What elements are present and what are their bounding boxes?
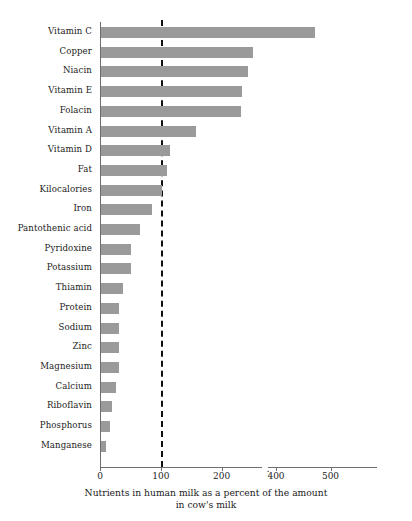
caption-line-2: in cow's milk — [0, 499, 412, 511]
bar — [101, 421, 110, 432]
x-axis-segment-right — [268, 467, 377, 468]
category-label: Kilocalories — [0, 184, 92, 194]
x-axis-tick-label: 200 — [213, 471, 230, 482]
category-label: Pyridoxine — [0, 243, 92, 253]
category-label: Thiamin — [0, 282, 92, 292]
x-axis: 0100200400500 — [100, 467, 412, 481]
bar — [101, 86, 242, 97]
axis-caption: Nutrients in human milk as a percent of … — [0, 487, 412, 511]
bar — [101, 441, 106, 452]
bar — [101, 263, 131, 274]
category-label: Fat — [0, 164, 92, 174]
x-axis-tick-label: 500 — [322, 471, 339, 482]
category-label: Protein — [0, 302, 92, 312]
bar — [101, 47, 253, 58]
x-axis-segment-left — [100, 467, 262, 468]
bar — [101, 106, 241, 117]
bar — [101, 283, 123, 294]
bar — [101, 303, 119, 314]
category-label: Niacin — [0, 65, 92, 75]
bar — [101, 145, 170, 156]
bar — [101, 382, 116, 393]
bar — [101, 185, 162, 196]
category-label: Zinc — [0, 341, 92, 351]
category-label: Manganese — [0, 440, 92, 450]
category-label: Vitamin E — [0, 85, 92, 95]
bar — [101, 362, 119, 373]
category-label: Calcium — [0, 381, 92, 391]
category-label: Folacin — [0, 105, 92, 115]
bar — [101, 224, 140, 235]
bar — [101, 165, 167, 176]
bar — [101, 66, 248, 77]
bar — [101, 401, 112, 412]
category-label: Pantothenic acid — [0, 223, 92, 233]
plot-area — [100, 22, 412, 467]
bar — [101, 126, 196, 137]
category-label: Phosphorus — [0, 420, 92, 430]
category-label: Potassium — [0, 262, 92, 272]
x-axis-break-marker — [260, 464, 269, 472]
bar — [101, 244, 131, 255]
category-label: Magnesium — [0, 361, 92, 371]
x-axis-tick-label: 100 — [152, 471, 169, 482]
category-label: Copper — [0, 46, 92, 56]
caption-line-1: Nutrients in human milk as a percent of … — [0, 487, 412, 499]
bar — [101, 323, 119, 334]
category-label: Iron — [0, 203, 92, 213]
bar — [101, 342, 119, 353]
bar-chart: Vitamin CCopperNiacinVitamin EFolacinVit… — [0, 0, 412, 521]
category-label: Riboflavin — [0, 400, 92, 410]
category-label: Vitamin A — [0, 125, 92, 135]
category-label: Sodium — [0, 322, 92, 332]
bar — [101, 204, 152, 215]
bar-segment-left — [101, 27, 244, 38]
category-label: Vitamin D — [0, 144, 92, 154]
category-label: Vitamin C — [0, 26, 92, 36]
x-axis-tick-label: 0 — [97, 471, 103, 482]
bar-segment-right — [266, 27, 315, 38]
x-axis-tick-label: 400 — [267, 471, 284, 482]
bar-with-axis-break — [101, 27, 315, 38]
